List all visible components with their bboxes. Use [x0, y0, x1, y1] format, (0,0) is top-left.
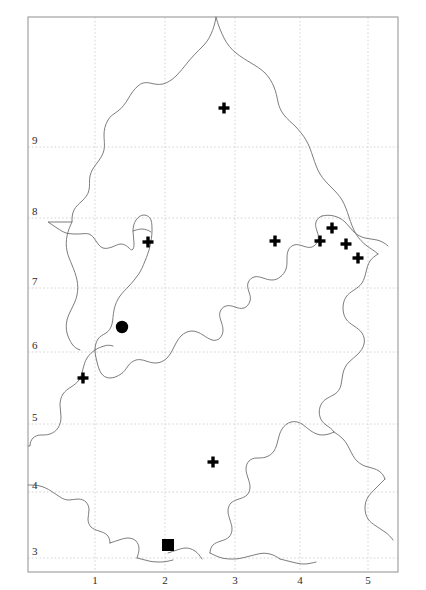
y-tick-8: 8	[32, 206, 38, 217]
x-tick-1: 1	[87, 575, 103, 586]
y-tick-5: 5	[32, 412, 38, 423]
y-tick-9: 9	[32, 135, 38, 146]
y-tick-6: 6	[32, 340, 38, 351]
distribution-map: 9876543 12345	[0, 0, 426, 590]
x-tick-3: 3	[227, 575, 243, 586]
y-tick-3: 3	[32, 546, 38, 557]
x-tick-5: 5	[360, 575, 376, 586]
x-tick-2: 2	[157, 575, 173, 586]
y-tick-4: 4	[32, 480, 38, 491]
map-canvas	[0, 0, 426, 590]
marker-square-0	[162, 539, 174, 551]
x-tick-4: 4	[292, 575, 308, 586]
y-tick-7: 7	[32, 276, 38, 287]
map-background	[0, 0, 426, 590]
marker-circle-0	[116, 321, 128, 333]
